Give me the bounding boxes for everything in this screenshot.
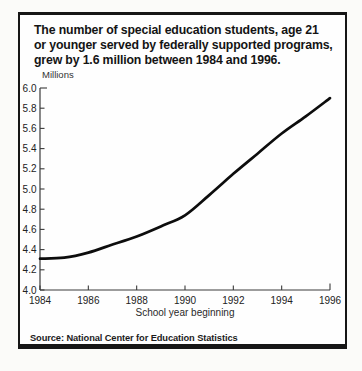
x-tick-label: 1986: [77, 295, 100, 306]
x-tick-label: 1988: [126, 295, 149, 306]
y-tick-label: 4.0: [23, 285, 37, 296]
x-tick-label: 1990: [174, 295, 197, 306]
y-tick-label: 4.6: [23, 224, 37, 235]
x-tick-label: 1996: [319, 295, 342, 306]
x-tick-label: 1984: [29, 295, 52, 306]
x-tick-label: 1994: [271, 295, 294, 306]
x-tick-label: 1992: [222, 295, 245, 306]
x-axis-title: School year beginning: [136, 307, 235, 318]
data-line: [40, 98, 330, 259]
y-tick-label: 5.8: [23, 103, 37, 114]
y-tick-label: 5.6: [23, 123, 37, 134]
y-tick-label: 5.0: [23, 184, 37, 195]
y-tick-label: 4.4: [23, 244, 37, 255]
y-tick-label: 4.8: [23, 204, 37, 215]
y-axis-unit-label: Millions: [42, 69, 74, 80]
chart-svg: 6.05.85.65.45.25.04.84.64.44.24.01984198…: [0, 0, 362, 371]
y-tick-label: 5.2: [23, 163, 37, 174]
y-tick-label: 5.4: [23, 143, 37, 154]
y-tick-label: 4.2: [23, 264, 37, 275]
y-tick-label: 6.0: [23, 83, 37, 94]
